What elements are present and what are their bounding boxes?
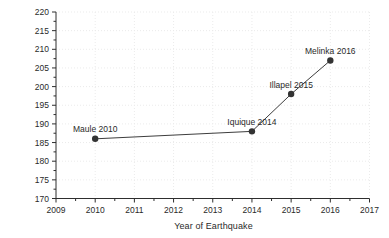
- x-axis-title: Year of Earthquake: [0, 221, 389, 231]
- x-tick-label: 2012: [164, 205, 183, 215]
- data-point: [327, 57, 333, 63]
- point-label: Maule 2010: [73, 124, 118, 134]
- y-tick-label: 210: [35, 44, 49, 54]
- y-tick-label: 220: [35, 7, 49, 17]
- y-tick-label: 205: [35, 63, 49, 73]
- line-chart: 2009201020112012201320142015201620171701…: [0, 0, 389, 238]
- y-tick-label: 170: [35, 194, 49, 204]
- data-points: Maule 2010Iquique 2014Illapel 2015Melink…: [73, 46, 356, 142]
- ticks: [52, 12, 370, 203]
- y-tick-label: 185: [35, 138, 49, 148]
- data-point: [288, 91, 294, 97]
- tick-labels: 2009201020112012201320142015201620171701…: [35, 7, 379, 215]
- x-tick-label: 2017: [360, 205, 379, 215]
- chart-figure: 2009201020112012201320142015201620171701…: [0, 0, 389, 238]
- point-label: Illapel 2015: [269, 80, 313, 90]
- x-tick-label: 2014: [242, 205, 261, 215]
- y-tick-label: 190: [35, 119, 49, 129]
- x-tick-label: 2016: [321, 205, 340, 215]
- point-label: Iquique 2014: [227, 117, 276, 127]
- gridlines: [56, 12, 370, 199]
- x-tick-label: 2013: [203, 205, 222, 215]
- y-tick-label: 200: [35, 82, 49, 92]
- x-tick-label: 2011: [125, 205, 144, 215]
- point-label: Melinka 2016: [305, 46, 356, 56]
- y-tick-label: 215: [35, 26, 49, 36]
- y-tick-label: 195: [35, 100, 49, 110]
- x-tick-label: 2010: [86, 205, 105, 215]
- x-tick-label: 2015: [282, 205, 301, 215]
- y-tick-label: 175: [35, 175, 49, 185]
- data-point: [249, 128, 255, 134]
- x-tick-label: 2009: [47, 205, 66, 215]
- y-tick-label: 180: [35, 156, 49, 166]
- data-point: [92, 136, 98, 142]
